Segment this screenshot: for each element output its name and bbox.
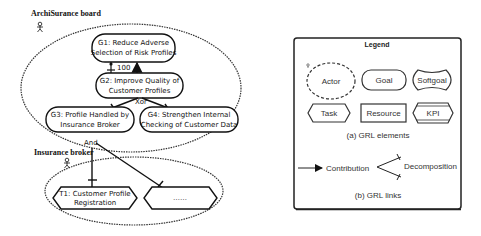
svg-text:G2: Improve Quality of: G2: Improve Quality of [100, 77, 180, 85]
xor-label: Xor [135, 98, 147, 106]
task-t2[interactable]: …… [144, 187, 217, 209]
actor-icon [64, 158, 70, 168]
actor-icon [37, 22, 43, 32]
svg-text:Goal: Goal [376, 76, 393, 85]
legend-caption-a: (a) GRL elements [347, 131, 410, 140]
grl-diagram: ArchiSurance board G1: Reduce Adverse Se… [0, 0, 481, 236]
svg-text:Softgoal: Softgoal [417, 76, 447, 85]
legend-box: Legend Actor Goal Softgoal Task Resource… [294, 38, 461, 210]
task-t1[interactable]: T1: Customer Profile Registration [53, 187, 137, 209]
contribution-value: 100 [117, 64, 130, 72]
svg-text:G1: Reduce Adverse: G1: Reduce Adverse [98, 39, 169, 47]
svg-text:Decomposition: Decomposition [404, 162, 457, 171]
goal-g4[interactable]: G4: Strengthen Internal Checking of Cust… [140, 107, 238, 132]
goal-g3[interactable]: G3: Profile Handled by Insurance Broker [46, 107, 134, 132]
svg-text:Insurance Broker: Insurance Broker [60, 121, 119, 129]
svg-text:Resource: Resource [366, 109, 401, 118]
legend-title: Legend [365, 41, 390, 49]
svg-text:Customer Profiles: Customer Profiles [109, 87, 171, 95]
goal-g2[interactable]: G2: Improve Quality of Customer Profiles [96, 73, 183, 98]
svg-text:G4: Strengthen Internal: G4: Strengthen Internal [148, 111, 231, 119]
svg-text:Task: Task [321, 109, 338, 118]
legend-caption-b: (b) GRL links [355, 191, 401, 200]
svg-text:Checking of Customer Data: Checking of Customer Data [141, 121, 238, 129]
svg-text:Selection of Risk Profiles: Selection of Risk Profiles [91, 49, 177, 57]
svg-text:KPI: KPI [427, 109, 440, 118]
svg-text:G3: Profile Handled by: G3: Profile Handled by [51, 111, 129, 119]
and-label: And [84, 139, 98, 147]
svg-text:T1: Customer Profile: T1: Customer Profile [58, 190, 130, 198]
actor-label-archisurance: ArchiSurance board [31, 9, 101, 18]
goal-g1[interactable]: G1: Reduce Adverse Selection of Risk Pro… [91, 34, 177, 62]
svg-text:……: …… [173, 194, 187, 202]
svg-text:Contribution: Contribution [326, 164, 369, 173]
svg-text:Registration: Registration [74, 199, 116, 207]
actor-label-broker: Insurance broker [34, 148, 94, 157]
contribution-marker [107, 62, 115, 73]
svg-text:Actor: Actor [322, 77, 341, 86]
